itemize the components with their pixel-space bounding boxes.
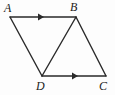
vertex-label-a: A [4,2,11,14]
arrowhead-ab-icon [38,14,44,21]
vertex-label-d: D [36,80,45,92]
segment-bd [42,17,76,76]
vertex-label-c: C [99,80,107,92]
diagram-edges [10,17,106,76]
segment-ad [10,17,42,76]
arrowhead-dc-icon [72,73,78,80]
segment-bc [76,17,106,76]
parallelogram-svg [0,0,115,95]
vertex-label-b: B [70,1,77,13]
geometry-diagram: A B D C [0,0,115,95]
